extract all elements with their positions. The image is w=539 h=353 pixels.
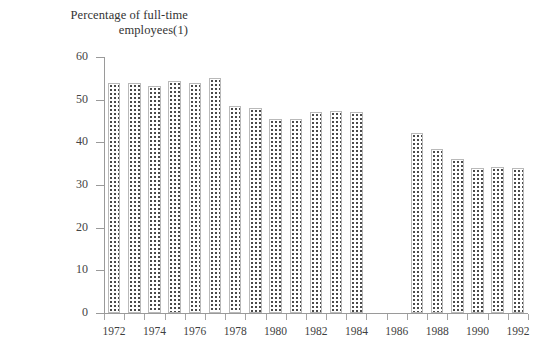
y-axis-label: 0: [42, 305, 88, 320]
bar: [310, 112, 323, 313]
bar: [431, 149, 444, 313]
y-axis-tick: [96, 313, 104, 314]
bar-chart: Percentage of full-time employees(1) 010…: [0, 0, 539, 353]
x-axis-tick: [225, 314, 226, 320]
x-axis-tick: [447, 314, 448, 320]
bar: [471, 168, 484, 313]
y-axis-tick: [96, 270, 104, 271]
y-axis-tick: [96, 228, 104, 229]
bar: [249, 108, 262, 313]
x-axis-tick: [185, 314, 186, 320]
y-axis-tick: [96, 185, 104, 186]
x-axis-tick: [407, 314, 408, 320]
x-axis-tick: [528, 314, 529, 320]
x-axis-tick: [124, 314, 125, 320]
x-axis-label: 1980: [264, 325, 287, 337]
x-axis-tick: [387, 314, 388, 320]
bar: [128, 83, 141, 313]
bar: [491, 167, 504, 313]
bar: [229, 106, 242, 313]
x-axis-tick: [286, 314, 287, 320]
x-axis-tick: [266, 314, 267, 320]
bar: [269, 119, 282, 313]
x-axis-tick: [467, 314, 468, 320]
y-axis-tick: [96, 57, 104, 58]
bar: [350, 112, 363, 313]
x-axis-label: 1986: [385, 325, 408, 337]
bar: [189, 83, 202, 313]
bar: [290, 119, 303, 313]
bar: [451, 159, 464, 313]
x-axis-label: 1982: [305, 325, 328, 337]
bar: [411, 133, 424, 313]
bar: [168, 81, 181, 313]
x-axis-line: [104, 313, 528, 314]
y-axis-label: 10: [42, 262, 88, 277]
x-axis-tick: [165, 314, 166, 320]
x-axis-label: 1976: [183, 325, 206, 337]
x-axis-tick: [326, 314, 327, 320]
y-axis-label: 20: [42, 220, 88, 235]
x-axis-tick: [508, 314, 509, 320]
x-axis-label: 1974: [143, 325, 166, 337]
x-axis-label: 1990: [466, 325, 489, 337]
bar: [108, 83, 121, 313]
chart-title: Percentage of full-time employees(1): [8, 8, 188, 38]
x-axis-label: 1972: [103, 325, 126, 337]
y-axis-label: 30: [42, 177, 88, 192]
bar: [209, 78, 222, 313]
x-axis-tick: [306, 314, 307, 320]
x-axis-tick: [144, 314, 145, 320]
x-axis-tick: [205, 314, 206, 320]
plot-area: [104, 57, 528, 313]
x-axis-tick: [245, 314, 246, 320]
bar: [512, 168, 525, 313]
x-axis-tick: [488, 314, 489, 320]
x-axis-tick: [346, 314, 347, 320]
y-axis-label: 50: [42, 92, 88, 107]
x-axis-label: 1992: [506, 325, 529, 337]
bar: [148, 86, 161, 313]
y-axis-tick: [96, 142, 104, 143]
y-axis-label: 40: [42, 134, 88, 149]
x-axis-label: 1984: [345, 325, 368, 337]
x-axis-tick: [366, 314, 367, 320]
x-axis-tick: [104, 314, 105, 320]
x-axis-label: 1988: [426, 325, 449, 337]
y-axis-tick: [96, 100, 104, 101]
x-axis-label: 1978: [224, 325, 247, 337]
y-axis-label: 60: [42, 49, 88, 64]
x-axis-tick: [427, 314, 428, 320]
bar: [330, 111, 343, 313]
